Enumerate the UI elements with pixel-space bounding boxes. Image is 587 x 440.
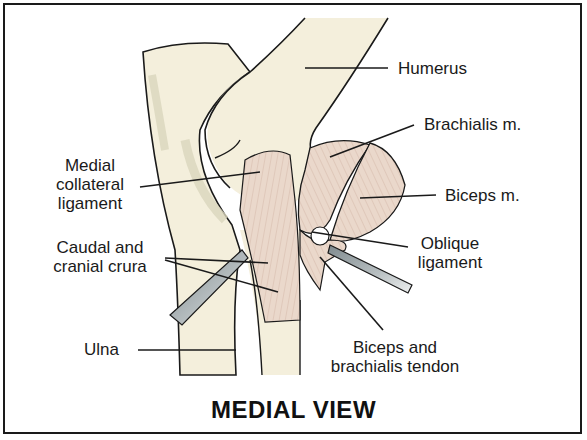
label-oblique-ligament: Oblique ligament (410, 234, 490, 272)
label-ulna: Ulna (84, 340, 119, 359)
label-line: cranial crura (40, 257, 160, 276)
diagram-title: MEDIAL VIEW (0, 396, 587, 424)
label-line: ligament (40, 194, 140, 213)
label-humerus: Humerus (398, 59, 467, 78)
label-biceps-brachialis-tendon: Biceps and brachialis tendon (310, 338, 480, 376)
retractor-right (328, 245, 412, 293)
label-line: brachialis tendon (310, 357, 480, 376)
label-medial-collateral-ligament: Medial collateral ligament (40, 156, 140, 213)
label-line: Caudal and (40, 238, 160, 257)
label-biceps: Biceps m. (445, 186, 520, 205)
medial-collateral-ligament (240, 151, 300, 322)
label-brachialis: Brachialis m. (424, 115, 521, 134)
label-line: Oblique (410, 234, 490, 253)
label-line: collateral (40, 175, 140, 194)
label-line: Biceps and (310, 338, 480, 357)
label-line: ligament (410, 253, 490, 272)
label-line: Medial (40, 156, 140, 175)
label-caudal-cranial-crura: Caudal and cranial crura (40, 238, 160, 276)
elbow-anatomy-illustration (0, 0, 587, 440)
